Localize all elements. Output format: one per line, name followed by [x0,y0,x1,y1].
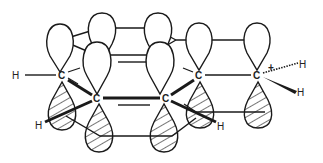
atom-h5: H [297,87,304,98]
atom-c4: C [195,70,202,81]
lower-lobe-c2 [85,104,112,152]
positive-charge: + [268,62,274,73]
bond-c1-c2 [68,80,92,95]
upper-lobe-c3 [146,42,174,94]
bond-c4-stub [183,68,193,72]
lower-lobe-c1 [48,82,75,130]
atom-c3: C [162,93,169,104]
upper-lobe-c2 [83,42,111,94]
atom-c1: C [58,70,65,81]
bond-c5-h5-wedge [263,77,297,94]
orbital-diagram: C C C C C H H H H H + [0,0,323,163]
lower-lobe-c4 [186,82,213,128]
bond-c3-c4 [171,80,194,95]
upper-lobes [47,13,270,94]
atom-c2: C [93,93,100,104]
atom-h3: H [217,121,224,132]
lower-lobe-c3 [150,104,177,152]
atom-h1: H [12,70,19,81]
atom-h4: H [299,59,306,70]
upper-lobe-c4 [186,23,212,70]
atom-c5: C [253,70,260,81]
atom-h2: H [35,120,42,131]
bond-c1-stub [68,68,80,72]
upper-lobe-c5 [244,23,270,70]
upper-lobe-c1 [47,24,73,72]
lower-lobe-c5 [244,82,271,128]
